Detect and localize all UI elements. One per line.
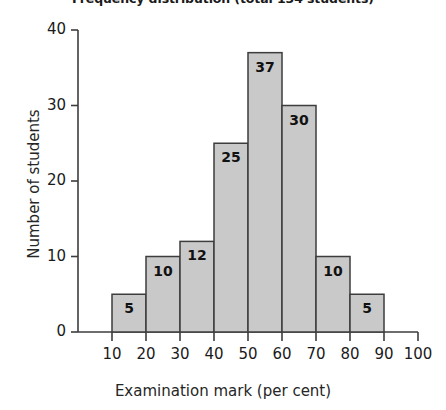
- y-tick-label: 40: [26, 22, 66, 37]
- plot-area: 0102030401020304050607080901005101225373…: [0, 0, 446, 410]
- histogram-bar: [350, 294, 384, 332]
- y-tick-label: 10: [26, 249, 66, 264]
- histogram-bar: [214, 143, 248, 332]
- histogram-bar: [282, 106, 316, 333]
- histogram-bar: [248, 53, 282, 332]
- histogram-bar: [316, 257, 350, 333]
- chart-figure: Frequency distribution (total 134 studen…: [0, 0, 446, 410]
- y-tick-label: 30: [26, 98, 66, 113]
- histogram-bar: [180, 241, 214, 332]
- y-tick-label: 20: [26, 173, 66, 188]
- histogram-bar: [146, 257, 180, 333]
- histogram-bar: [112, 294, 146, 332]
- y-tick-label: 0: [26, 324, 66, 339]
- x-tick-label: 100: [398, 347, 438, 362]
